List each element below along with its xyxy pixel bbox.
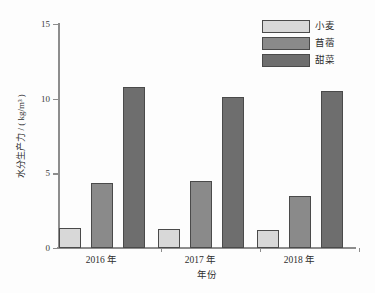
- y-axis-tick: [53, 24, 58, 25]
- y-axis-tick-label: 10: [41, 94, 50, 104]
- legend: 小麦苜蓿甜菜: [262, 20, 335, 67]
- legend-item: 小麦: [262, 20, 335, 33]
- legend-item: 甜菜: [262, 54, 335, 67]
- y-axis-tick: [53, 248, 58, 249]
- bar: [222, 97, 244, 248]
- y-axis-tick-label: 5: [46, 168, 51, 178]
- bar: [91, 183, 113, 248]
- bar: [257, 230, 279, 248]
- y-axis-tick-label: 15: [41, 19, 50, 29]
- x-axis-tick: [359, 248, 360, 252]
- bar: [321, 91, 343, 248]
- x-axis-tick-label: 2017 年: [185, 252, 216, 266]
- bar: [123, 87, 145, 248]
- bar: [190, 181, 212, 248]
- legend-label: 苜蓿: [315, 39, 335, 49]
- x-axis-title: 年份: [197, 267, 217, 281]
- legend-label: 甜菜: [315, 56, 335, 66]
- legend-swatch: [262, 20, 310, 33]
- y-axis-tick-label: 0: [46, 243, 51, 253]
- x-axis-tick-label: 2018 年: [284, 252, 315, 266]
- legend-label: 小麦: [315, 22, 335, 32]
- legend-swatch: [262, 37, 310, 50]
- y-axis-title: 水分生产力 / ( kg/m³ ): [14, 94, 27, 178]
- legend-swatch: [262, 54, 310, 67]
- bar: [158, 229, 180, 248]
- x-axis-tick: [161, 248, 162, 252]
- bar: [59, 228, 81, 248]
- bar: [289, 196, 311, 248]
- bar-chart: 051015 水分生产力 / ( kg/m³ ) 年份 小麦苜蓿甜菜 2016 …: [0, 0, 375, 293]
- y-axis-tick: [53, 173, 58, 174]
- x-axis-tick: [260, 248, 261, 252]
- y-axis-tick: [53, 99, 58, 100]
- x-axis-tick-label: 2016 年: [86, 252, 117, 266]
- legend-item: 苜蓿: [262, 37, 335, 50]
